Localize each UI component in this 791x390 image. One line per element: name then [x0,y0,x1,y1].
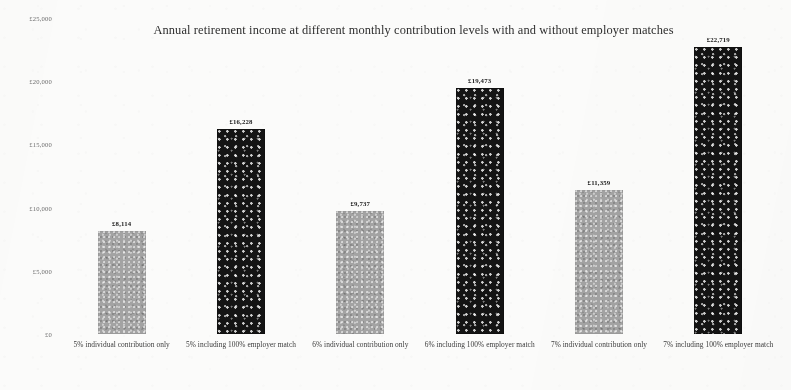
plot-area: £8,114£16,228£9,737£19,473£11,359£22,719 [62,18,778,334]
y-axis-tick-label: £15,000 [29,141,52,148]
x-axis-category-labels: 5% individual contribution only5% includ… [62,340,778,380]
bar-value-label: £19,473 [468,77,491,84]
bar-value-label: £16,228 [229,118,252,125]
bar-value-label: £11,359 [588,179,611,186]
y-axis-tick-label: £10,000 [29,204,52,211]
x-axis-category-label: 7% including 100% employer match [659,340,778,351]
bar-slot: £19,473 [420,18,539,334]
y-axis-tick-label: £20,000 [29,78,52,85]
x-axis-category-label: 5% individual contribution only [62,340,181,351]
bar[interactable] [575,190,623,334]
bar-value-label: £8,114 [112,220,131,227]
bar[interactable] [456,88,504,334]
bar-slot: £16,228 [181,18,300,334]
y-axis-tick-label: £0 [45,331,52,338]
x-axis-category-label: 6% including 100% employer match [420,340,539,351]
bar-slot: £11,359 [539,18,658,334]
x-axis-category-label: 6% individual contribution only [301,340,420,351]
bar-value-label: £22,719 [707,36,730,43]
y-axis: £25,000£20,000£15,000£10,000£5,000£0 [0,18,58,334]
bar-slot: £22,719 [659,18,778,334]
bar[interactable] [694,47,742,334]
bar[interactable] [217,129,265,334]
bars-layer: £8,114£16,228£9,737£19,473£11,359£22,719 [62,18,778,334]
y-axis-tick-label: £25,000 [29,15,52,22]
bar[interactable] [336,211,384,334]
x-axis-category-label: 7% individual contribution only [539,340,658,351]
bar[interactable] [98,231,146,334]
y-axis-tick-label: £5,000 [33,267,52,274]
x-axis-category-label: 5% including 100% employer match [181,340,300,351]
bar-slot: £8,114 [62,18,181,334]
bar-slot: £9,737 [301,18,420,334]
bar-chart: Annual retirement income at different mo… [0,0,791,390]
bar-value-label: £9,737 [351,200,371,207]
